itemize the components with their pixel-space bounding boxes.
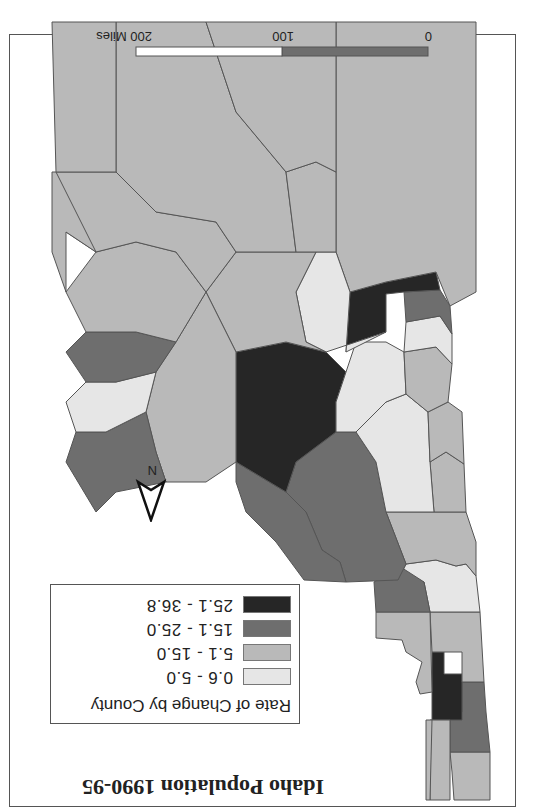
legend-swatch bbox=[243, 621, 291, 638]
legend-label: 0.6 - 5.0 bbox=[166, 667, 233, 687]
map-canvas: Idaho Population 1990-95 Rate of Change … bbox=[0, 0, 536, 812]
county-shoshone-2 bbox=[376, 612, 432, 694]
legend-swatch bbox=[243, 669, 291, 686]
scale-label-0: 0 bbox=[425, 29, 432, 44]
legend-item: 15.1 - 25.0 bbox=[146, 619, 291, 639]
county-owyhee bbox=[336, 22, 476, 306]
county-shoshone bbox=[430, 720, 450, 800]
legend-title: Rate of Change by County bbox=[91, 695, 291, 715]
legend-label: 25.1 - 36.8 bbox=[146, 595, 233, 615]
county-boundary bbox=[450, 752, 490, 800]
scale-labels: 0 100 200 Miles bbox=[130, 32, 430, 62]
legend-label: 5.1 - 15.0 bbox=[156, 643, 233, 663]
scale-label-100: 100 bbox=[272, 29, 294, 44]
north-arrow: N bbox=[134, 462, 168, 522]
legend-item: 5.1 - 15.0 bbox=[156, 643, 291, 663]
county-caribou-bear-lake bbox=[52, 22, 116, 172]
legend: Rate of Change by County 0.6 - 5.0 5.1 -… bbox=[50, 584, 300, 724]
scale-label-200: 200 Miles bbox=[96, 29, 152, 44]
north-arrow-icon bbox=[134, 478, 168, 522]
map-title: Idaho Population 1990-95 bbox=[34, 774, 324, 800]
legend-item: 25.1 - 36.8 bbox=[146, 595, 291, 615]
north-label: N bbox=[148, 463, 157, 478]
legend-item: 0.6 - 5.0 bbox=[166, 667, 291, 687]
legend-swatch bbox=[243, 645, 291, 662]
legend-label: 15.1 - 25.0 bbox=[146, 619, 233, 639]
legend-swatch bbox=[243, 597, 291, 614]
county-bonner bbox=[432, 652, 462, 720]
